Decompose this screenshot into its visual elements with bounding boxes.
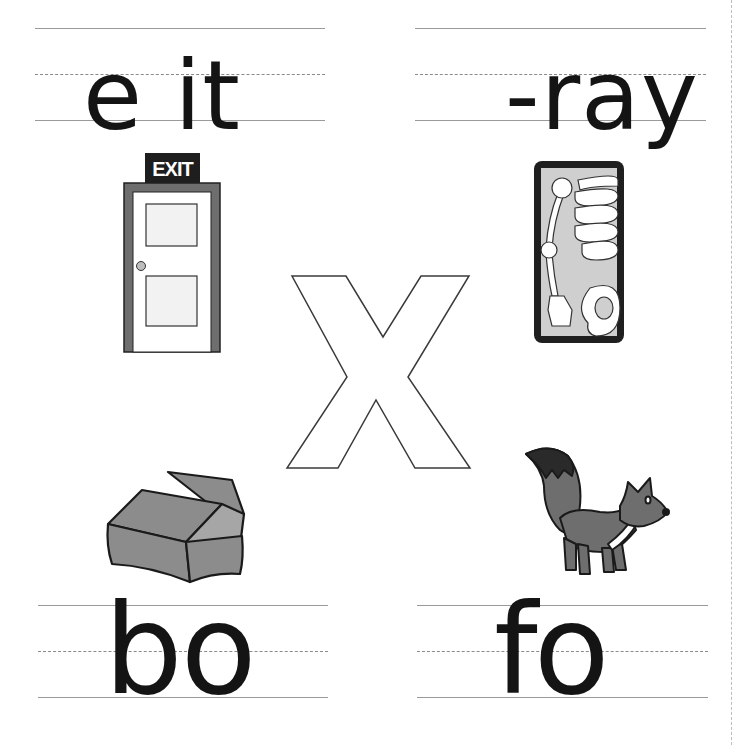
word-fox-template: fo <box>494 588 606 712</box>
word-exit-template: e it <box>83 48 241 144</box>
xray-illustration <box>530 158 630 348</box>
cardboard-box-illustration <box>104 468 244 586</box>
fox-illustration <box>520 440 670 580</box>
guide-top-line <box>35 28 325 29</box>
shoulder-joint <box>552 178 572 198</box>
door-panel-top <box>146 204 197 246</box>
cut-line <box>731 0 732 745</box>
word-box-template: bo <box>104 588 255 712</box>
elbow-joint <box>541 242 557 258</box>
exit-sign-text: EXIT <box>152 158 193 180</box>
word-xray-template: -ray <box>505 48 699 144</box>
exit-door-illustration: EXIT <box>120 150 230 355</box>
center-letter-x <box>284 275 468 470</box>
door-panel-bottom <box>146 276 197 326</box>
guide-top-line <box>415 28 706 29</box>
door-knob-icon <box>137 262 146 271</box>
